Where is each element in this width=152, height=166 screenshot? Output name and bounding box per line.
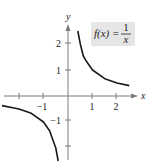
x-axis: x −1 1 2 (4, 90, 146, 112)
y-tick-label-2: 2 (56, 38, 61, 49)
callout-numerator: 1 (123, 21, 129, 33)
x-tick-label-2: 2 (114, 101, 119, 112)
chart: f(x) = 1 x x −1 1 2 y 2 1 −1 (0, 0, 152, 166)
x-axis-label: x (140, 90, 146, 101)
callout-denominator: x (123, 33, 129, 45)
callout-lhs: f(x) = (94, 27, 119, 40)
y-axis-arrow-icon (66, 24, 71, 31)
x-axis-arrow-icon (131, 94, 138, 99)
y-axis: y 2 1 −1 (50, 11, 71, 160)
y-axis-label: y (65, 11, 71, 22)
curve-negative-branch (2, 106, 58, 161)
y-tick-label-1: 1 (56, 65, 61, 76)
function-callout: f(x) = 1 x (91, 21, 135, 48)
x-tick-label-neg1: −1 (37, 101, 48, 112)
y-tick-label-neg1: −1 (50, 115, 61, 126)
x-tick-label-1: 1 (90, 101, 95, 112)
